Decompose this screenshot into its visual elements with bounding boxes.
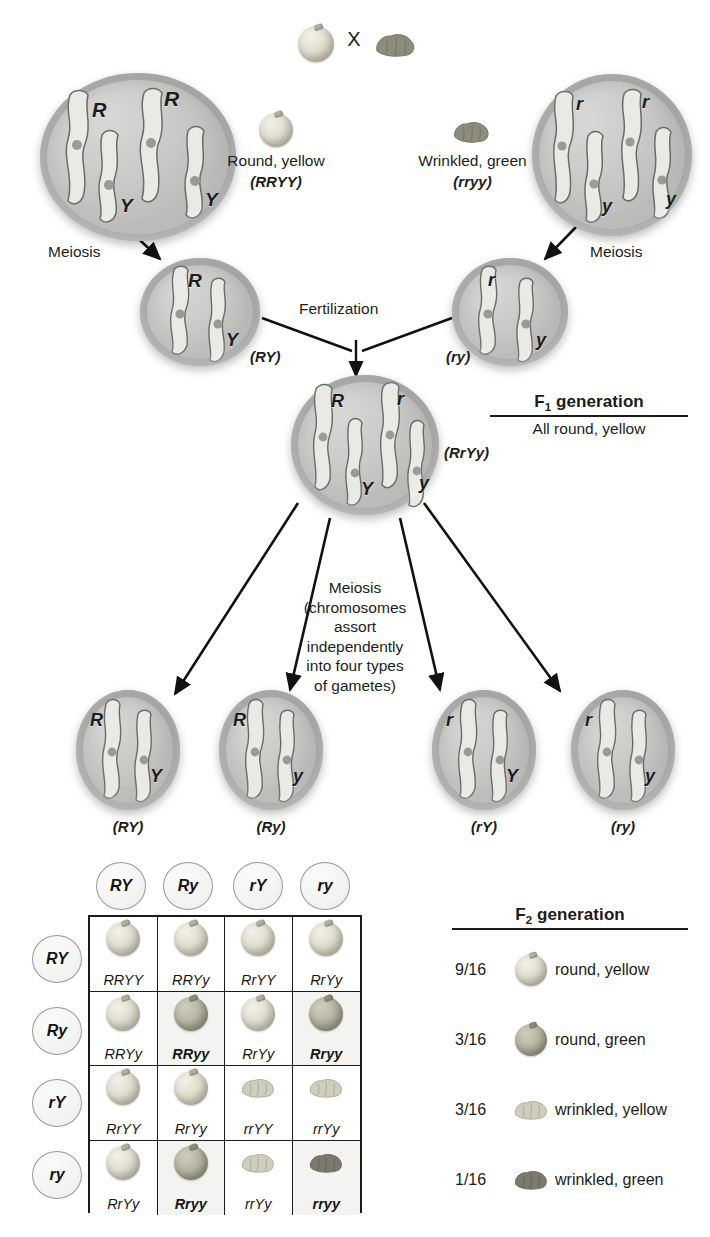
punnett-col-header-rY: rY — [233, 862, 283, 910]
punnett-row: RrYyRryyrrYyrryy — [90, 1141, 360, 1216]
punnett-cell-genotype: RrYy — [90, 1196, 157, 1212]
punnett-col-header-Ry: Ry — [163, 862, 213, 910]
allele-label: Y — [226, 330, 238, 351]
punnett-cell-RrYY[interactable]: RrYY — [225, 917, 293, 992]
seed-round-green-icon — [515, 1024, 547, 1056]
meiosis-note-line: Meiosis — [250, 578, 460, 598]
f2-legend-row: 3/16round, green — [455, 1023, 646, 1057]
punnett-col-header-RY: RY — [96, 862, 146, 910]
seed-round-yellow-icon — [515, 954, 547, 986]
gamete-label-parent-left: (RY) — [250, 348, 281, 365]
f1-gamete-label: (ry) — [553, 818, 693, 835]
punnett-cell-seed — [225, 920, 292, 958]
f1-zygote-cell: R r Y y — [291, 375, 439, 515]
punnett-cell-genotype: RRYy — [158, 972, 225, 988]
seed-round-yellow-icon — [241, 922, 275, 956]
f1-gamete-label: (Ry) — [201, 818, 341, 835]
meiosis-label-right: Meiosis — [590, 243, 643, 261]
gamete-label-parent-right: (ry) — [446, 348, 470, 365]
punnett-cell-Rryy[interactable]: Rryy — [293, 992, 360, 1067]
seed-wrinkled-yellow-icon — [240, 1077, 276, 1099]
allele-label: r — [642, 92, 649, 113]
f2-legend-row: 3/16wrinkled, yellow — [455, 1093, 667, 1127]
allele-label: y — [419, 473, 429, 494]
punnett-cell-RrYy[interactable]: RrYy — [293, 917, 360, 992]
punnett-row-header-RY: RY — [32, 935, 82, 983]
punnett-cell-RrYY[interactable]: RrYY — [90, 1066, 158, 1141]
seed-round-yellow-icon — [106, 1071, 140, 1105]
seed-round-yellow-icon — [241, 997, 275, 1031]
punnett-cell-seed — [225, 1069, 292, 1107]
f2-fraction: 1/16 — [455, 1171, 507, 1189]
punnett-cell-genotype: RRYY — [90, 972, 157, 988]
punnett-cell-seed — [158, 1069, 225, 1107]
allele-label: Y — [506, 766, 518, 787]
allele-label: r — [446, 710, 453, 731]
punnett-cell-seed — [90, 995, 157, 1033]
punnett-cell-seed — [293, 1069, 360, 1107]
seed-wrinkled-yellow-icon — [308, 1077, 344, 1099]
punnett-cell-genotype: Rryy — [158, 1196, 225, 1212]
cross-parent-seed-wrinkled — [374, 32, 416, 58]
punnett-cell-RrYy[interactable]: RrYy — [90, 1141, 158, 1216]
f2-fraction: 9/16 — [455, 961, 507, 979]
meiosis-note-line: assort — [250, 617, 460, 637]
seed-round-yellow-icon — [106, 922, 140, 956]
f2-generation-box: F2 generation — [452, 905, 688, 933]
parent-left-genotype: (RRYY) — [196, 173, 356, 190]
punnett-cell-rryy[interactable]: rryy — [293, 1141, 360, 1216]
f2-seed — [507, 953, 555, 987]
meiosis-note: Meiosis (chromosomes assort independentl… — [250, 578, 460, 695]
punnett-row: RRYyRRyyRrYyRryy — [90, 992, 360, 1067]
punnett-cell-genotype: rrYy — [293, 1121, 360, 1137]
punnett-cell-seed — [225, 995, 292, 1033]
f1-gamete-cell-RY: RY — [76, 690, 180, 810]
punnett-square: RRYYRRYyRrYYRrYyRRYyRRyyRrYyRryyRrYYRrYy… — [88, 915, 362, 1213]
punnett-cell-RRYy[interactable]: RRYy — [158, 917, 226, 992]
punnett-cell-rrYy[interactable]: rrYy — [225, 1141, 293, 1216]
punnett-cell-RRYy[interactable]: RRYy — [90, 992, 158, 1067]
f2-generation-title: F2 generation — [452, 905, 688, 926]
seed-round-yellow-icon — [309, 922, 343, 956]
punnett-cell-genotype: RRyy — [158, 1046, 225, 1062]
allele-label: R — [92, 99, 106, 122]
punnett-cell-seed — [158, 995, 225, 1033]
divider — [490, 415, 688, 417]
allele-label: y — [645, 766, 655, 787]
phenotype-seed-round-yellow — [259, 113, 293, 147]
allele-label: Y — [205, 189, 218, 211]
allele-label: Y — [361, 479, 373, 500]
f1-genotype-label: (RrYy) — [444, 444, 489, 461]
f1-gamete-label: (RY) — [58, 818, 198, 835]
gamete-cell-parent-left: R Y — [140, 258, 260, 366]
punnett-cell-RRYY[interactable]: RRYY — [90, 917, 158, 992]
meiosis-note-line: (chromosomes — [250, 598, 460, 618]
allele-label: y — [293, 766, 303, 787]
meiosis-label-left: Meiosis — [48, 243, 101, 261]
f2-phenotype-text: wrinkled, yellow — [555, 1101, 667, 1119]
f1-description: All round, yellow — [490, 420, 688, 438]
seed-round-green-icon — [174, 1146, 208, 1180]
seed-round-green-icon — [309, 997, 343, 1031]
cross-parent-seed-round — [298, 26, 334, 62]
f1-generation-box: F1 generation All round, yellow — [490, 392, 688, 439]
punnett-cell-rrYY[interactable]: rrYY — [225, 1066, 293, 1141]
seed-round-yellow-icon — [174, 922, 208, 956]
f2-seed — [507, 1093, 555, 1127]
punnett-cell-Rryy[interactable]: Rryy — [158, 1141, 226, 1216]
punnett-row-header-ry: ry — [32, 1151, 82, 1199]
meiosis-note-line: into four types — [250, 656, 460, 676]
punnett-cell-genotype: RRYy — [90, 1046, 157, 1062]
punnett-cell-RRyy[interactable]: RRyy — [158, 992, 226, 1067]
f2-seed — [507, 1023, 555, 1057]
f2-legend-row: 1/16wrinkled, green — [455, 1163, 664, 1197]
punnett-cell-genotype: Rryy — [293, 1046, 360, 1062]
punnett-cell-RrYy[interactable]: RrYy — [158, 1066, 226, 1141]
punnett-cell-RrYy[interactable]: RrYy — [225, 992, 293, 1067]
divider — [452, 928, 688, 930]
punnett-cell-rrYy[interactable]: rrYy — [293, 1066, 360, 1141]
allele-label: y — [536, 330, 546, 351]
punnett-row: RrYYRrYyrrYYrrYy — [90, 1066, 360, 1141]
allele-label: Y — [150, 766, 162, 787]
allele-label: R — [233, 710, 246, 731]
